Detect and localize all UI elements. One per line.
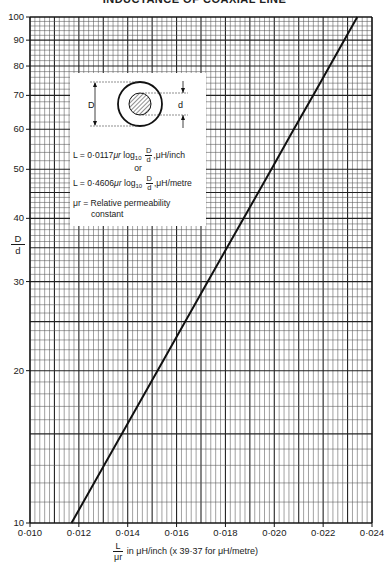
x-tick-label: 0·012 (59, 527, 99, 538)
inner-conductor-icon (129, 93, 151, 115)
formula-metre-log: log (124, 178, 135, 188)
inner-diameter-label: d (178, 100, 183, 110)
x-axis-title: L μr in μH/inch (x 39·37 for μH/metre) (112, 541, 258, 562)
y-tick-label: 30 (0, 276, 24, 287)
formula-metre-mu: μr (114, 178, 122, 188)
formula-metre-den: d (146, 184, 153, 192)
formula-inset: D d L = 0·0117μr log10 Dd,μH/inch or L =… (70, 73, 206, 226)
formula-inch-coefficient: L = 0·0117 (73, 150, 113, 160)
y-axis-title: D d (11, 233, 25, 256)
formula-inch: L = 0·0117μr log10 Dd,μH/inch (73, 147, 185, 164)
formula-metre-base: 10 (135, 183, 142, 189)
x-tick-label: 0·020 (254, 527, 294, 538)
coaxial-cross-section-diagram: D d (70, 73, 206, 143)
x-tick-label: 0·010 (10, 527, 50, 538)
y-tick-label: 80 (0, 60, 24, 71)
permeability-note-line2: constant (91, 209, 124, 219)
y-axis-title-denominator: d (15, 245, 20, 256)
formula-inch-log: log (123, 150, 134, 160)
x-tick-label: 0·016 (157, 527, 197, 538)
formula-inch-mu: μr (113, 150, 121, 160)
x-axis-title-text: in μH/inch (x 39·37 for μH/metre) (127, 546, 258, 556)
y-tick-label: 20 (0, 365, 24, 376)
x-axis-title-numerator: L (113, 541, 123, 552)
x-tick-label: 0·022 (303, 527, 343, 538)
y-tick-label: 100 (0, 11, 24, 22)
formula-inch-unit: ,μH/inch (153, 150, 185, 160)
y-tick-label: 70 (0, 89, 24, 100)
x-tick-label: 0·018 (205, 527, 245, 538)
x-tick-label: 0·024 (352, 527, 389, 538)
y-tick-label: 90 (0, 34, 24, 45)
formula-or: or (70, 163, 206, 173)
permeability-note-line1: μr = Relative permeability (73, 198, 170, 208)
outer-diameter-label: D (88, 100, 95, 110)
formula-metre-unit: ,μH/metre (154, 178, 192, 188)
formula-inch-fraction: Dd (145, 147, 152, 164)
formula-metre: L = 0·4606μr log10 Dd,μH/metre (73, 175, 192, 192)
formula-metre-fraction: Dd (146, 175, 153, 192)
y-tick-label: 50 (0, 163, 24, 174)
y-tick-label: 40 (0, 212, 24, 223)
formula-metre-coefficient: L = 0·4606 (73, 178, 114, 188)
x-tick-label: 0·014 (108, 527, 148, 538)
x-axis-title-fraction: L μr (113, 541, 123, 562)
x-axis-title-denominator: μr (113, 552, 123, 562)
y-tick-label: 60 (0, 123, 24, 134)
formula-inch-base: 10 (135, 155, 142, 161)
y-axis-title-numerator: D (11, 233, 25, 245)
